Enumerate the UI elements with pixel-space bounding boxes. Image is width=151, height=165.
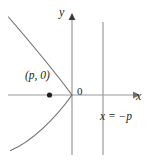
- y-axis-arrowhead-icon: [69, 13, 76, 20]
- parabola-figure: y x 0 (p, 0) x = −p: [0, 0, 151, 165]
- origin-label: 0: [77, 86, 83, 97]
- figure-canvas: [0, 0, 151, 165]
- y-axis: [69, 13, 76, 155]
- parabola-curve: [9, 17, 73, 151]
- focus-point-marker: [47, 92, 52, 97]
- focus-point-label: (p, 0): [25, 70, 50, 82]
- x-axis: [8, 92, 140, 99]
- x-axis-label: x: [136, 90, 141, 102]
- y-axis-label: y: [59, 6, 64, 18]
- directrix-label: x = −p: [100, 111, 132, 123]
